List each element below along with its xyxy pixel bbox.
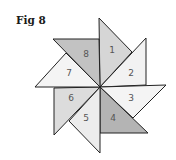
segment-number: 6 [68, 93, 74, 103]
pinwheel-diagram: 12345678 [0, 0, 176, 160]
segment-number: 1 [109, 45, 115, 55]
segment-number: 5 [83, 113, 89, 123]
segment-number: 4 [110, 113, 116, 123]
segment-number: 2 [128, 68, 134, 78]
segment-number: 3 [128, 93, 134, 103]
segment-number: 7 [66, 68, 72, 78]
segment-number: 8 [83, 49, 89, 59]
